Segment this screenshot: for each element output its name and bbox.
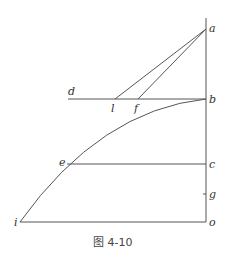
geometry-diagram: a b d l f e c g i o 图 4-10 bbox=[0, 0, 229, 268]
figure-caption: 图 4-10 bbox=[93, 236, 132, 249]
line-fa bbox=[138, 29, 206, 99]
label-o: o bbox=[209, 216, 216, 229]
label-c: c bbox=[209, 158, 215, 171]
label-b: b bbox=[209, 93, 216, 106]
label-f: f bbox=[133, 102, 140, 115]
line-la bbox=[115, 29, 206, 99]
label-a: a bbox=[209, 22, 216, 35]
label-i: i bbox=[14, 216, 18, 229]
label-l: l bbox=[111, 102, 115, 115]
curve-bei bbox=[20, 99, 206, 222]
label-e: e bbox=[59, 156, 66, 169]
label-d: d bbox=[68, 85, 75, 98]
label-g: g bbox=[209, 188, 216, 201]
